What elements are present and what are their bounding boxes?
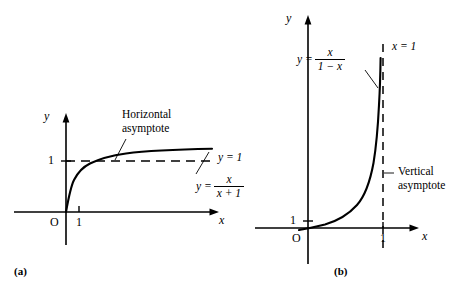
curve-equation-b-numerator: x	[315, 47, 345, 59]
x-axis-label-b: x	[422, 230, 427, 242]
y-axis-label-b: y	[286, 12, 291, 24]
origin-label-a: O	[50, 216, 59, 228]
asymptote-equation-label-b: x = 1	[392, 41, 416, 53]
panel-b: y x O 1 1 x = 1 y =x1 − x Vertical asymp…	[237, 0, 474, 297]
y-axis-a	[63, 113, 70, 245]
x-axis-label-a: x	[219, 214, 224, 226]
curve-a	[66, 149, 212, 212]
origin-label-b: O	[292, 232, 301, 244]
caption-b: (b)	[334, 266, 347, 277]
y-axis-label-a: y	[44, 110, 49, 122]
x-axis-a	[14, 209, 219, 216]
curve-b	[299, 58, 381, 230]
x-axis-b	[255, 225, 419, 232]
equation-leader-b	[365, 70, 378, 88]
curve-equation-b-denominator: 1 − x	[315, 61, 345, 73]
x-tick-label-b: 1	[380, 232, 386, 244]
horizontal-asymptote-annotation-line1: Horizontal	[122, 108, 171, 122]
vertical-asymptote-annotation-line2: asymptote	[398, 179, 445, 193]
asymptote-figure: y x O 1 1 Horizontal asymptote y = 1 y =…	[0, 0, 474, 297]
equation-leader-a	[196, 152, 209, 174]
y-tick-label-a: 1	[48, 154, 54, 166]
x-tick-label-a: 1	[76, 216, 82, 228]
panel-a-graphics	[0, 0, 237, 297]
caption-a: (a)	[14, 266, 27, 277]
curve-equation-a-lead: y =	[196, 181, 212, 193]
vertical-asymptote-annotation-line1: Vertical	[398, 165, 445, 179]
panel-b-graphics	[237, 0, 474, 297]
curve-equation-b-lead: y =	[297, 54, 313, 66]
horizontal-asymptote-annotation-line2: asymptote	[122, 122, 171, 136]
vertical-asymptote-annotation: Vertical asymptote	[398, 165, 445, 192]
y-tick-label-b: 1	[290, 214, 296, 226]
panel-a: y x O 1 1 Horizontal asymptote y = 1 y =…	[0, 0, 237, 297]
curve-equation-b-fraction: x1 − x	[315, 47, 345, 72]
annotation-leader-a	[115, 139, 126, 160]
curve-equation-b: y =x1 − x	[297, 47, 345, 72]
horizontal-asymptote-annotation: Horizontal asymptote	[122, 108, 171, 135]
